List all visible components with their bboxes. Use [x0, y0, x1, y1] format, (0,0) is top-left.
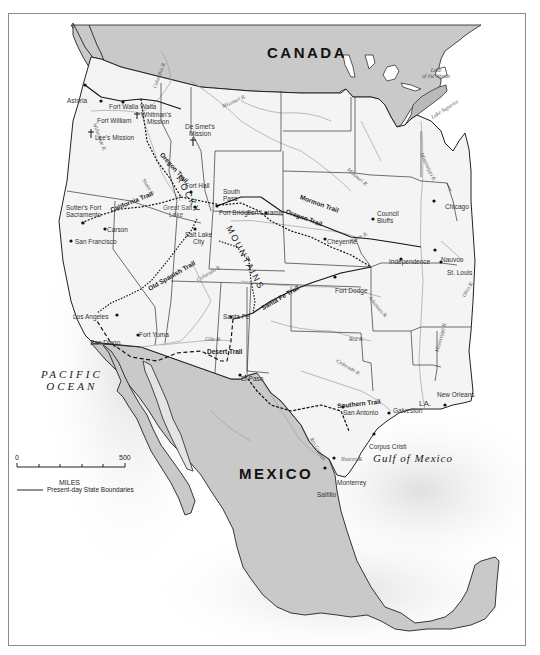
place-corpus-christi: Corpus Cristi [369, 444, 407, 451]
place-fort-walla-walla: Fort Walla Walla [109, 104, 156, 111]
sutters-line2: Sacramento [66, 211, 101, 218]
scale-start-label: 0 [15, 454, 19, 461]
place-fort-hall: Fort Hall [185, 183, 210, 190]
place-new-orleans: New Orleans [437, 392, 475, 399]
place-great-salt-lake: Great Salt Lake [163, 204, 192, 218]
place-santa-fe: Santa Fe [223, 314, 249, 321]
nueces-river-label: Nueces R. [341, 456, 363, 462]
place-south-pass: South Pass [223, 188, 240, 202]
pacific-ocean-label: PACIFIC OCEAN [41, 369, 103, 392]
place-san-antonio: San Antonio [343, 410, 378, 417]
desmets-line1: De Smet's [185, 123, 215, 130]
whitmans-line2: Mission [141, 118, 171, 125]
place-san-diego: San Diego [90, 340, 120, 347]
lake-woods-line2: of the Woods [422, 73, 450, 79]
place-cheyenne: Cheyenne [327, 239, 357, 246]
red-river-label: Red R. [349, 336, 364, 342]
cb-line2: Bluffs [377, 217, 399, 224]
place-san-francisco: San Francisco [75, 239, 117, 246]
place-lees-mission: Lee's Mission [95, 135, 134, 142]
place-fort-laramie: Fort Laramie [247, 210, 284, 217]
slc-line1: Salt Lake [185, 231, 212, 238]
desmets-line2: Mission [185, 130, 215, 137]
place-council-bluffs: Council Bluffs [377, 210, 399, 224]
pacific-line1: PACIFIC [41, 369, 103, 381]
mexico-label: MEXICO [239, 465, 313, 482]
place-st-louis: St. Louis [447, 270, 472, 277]
place-de-smets-mission: De Smet's Mission [185, 123, 215, 137]
place-chicago: Chicago [445, 204, 469, 211]
place-sutters-fort: Sutter's Fort Sacramento [66, 204, 101, 218]
cb-line1: Council [377, 210, 399, 217]
gulf-of-mexico-label: Gulf of Mexico [373, 452, 453, 464]
lake-woods-label: Lake of the Woods [422, 67, 450, 79]
scale-unit-label: MILES [59, 479, 80, 486]
southpass-line2: Pass [223, 195, 240, 202]
map-frame: CANADA MEXICO PACIFIC OCEAN Gulf of Mexi… [8, 13, 526, 646]
gila-river-label: Gila R. [205, 336, 221, 342]
place-whitmans-mission: Whitman's Mission [141, 111, 171, 125]
place-saltillo: Saltillo [317, 492, 336, 499]
pacific-line2: OCEAN [41, 381, 103, 393]
desert-trail-label: Desert Trail [207, 348, 242, 355]
canada-label: CANADA [267, 44, 347, 61]
place-carson: Carson [107, 227, 128, 234]
southpass-line1: South [223, 188, 240, 195]
place-fort-yuma: Fort Yuma [139, 332, 169, 339]
place-astoria: Astoria [67, 98, 87, 105]
place-fort-dodge: Fort Dodge [335, 288, 368, 295]
slc-line2: City [185, 238, 212, 245]
place-fort-william: Fort William [97, 118, 131, 125]
scale-end-label: 500 [119, 454, 131, 461]
place-salt-lake-city: Salt Lake City [185, 231, 212, 245]
whitmans-line1: Whitman's [141, 111, 171, 118]
place-el-paso: El Paso [241, 376, 263, 383]
place-los-angeles: Los Angeles [73, 314, 108, 321]
place-galveston: Galveston [393, 408, 422, 415]
place-nauvoo: Nauvoo [441, 257, 463, 264]
place-independence: Independence [389, 259, 430, 266]
place-monterrey: Monterrey [337, 480, 366, 487]
boundary-legend-label: Present-day State Boundaries [47, 486, 134, 493]
gsl-line2: Lake [163, 211, 192, 218]
gsl-line1: Great Salt [163, 204, 192, 211]
sutters-line1: Sutter's Fort [66, 204, 101, 211]
